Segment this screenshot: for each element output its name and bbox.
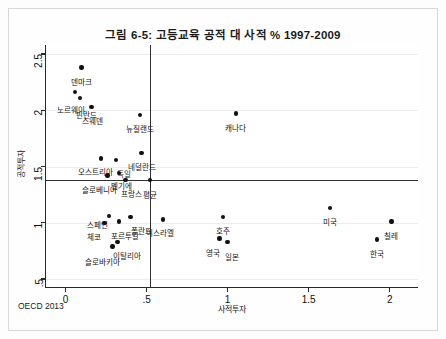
y-tick-label: 1.5 <box>34 167 45 181</box>
data-point <box>117 219 121 223</box>
data-point-label: 스웨덴 <box>82 118 103 126</box>
gridline-y <box>46 110 418 111</box>
data-point-label: 영국 <box>206 250 220 258</box>
data-point-label: 프랑스 <box>121 191 142 199</box>
data-point <box>73 90 77 94</box>
data-point <box>161 217 165 221</box>
data-point-label: 덴마크 <box>71 79 92 87</box>
data-point <box>375 237 379 241</box>
y-tick-label: 2 <box>34 110 45 116</box>
y-tick-label: 1 <box>34 223 45 229</box>
data-point-label: 일본 <box>225 254 239 262</box>
gridline-y <box>46 54 418 55</box>
x-axis-label: 사적투자 <box>45 303 418 314</box>
y-tick-label: 2.5 <box>34 54 45 68</box>
data-point <box>328 206 332 210</box>
gridline-y <box>46 279 418 280</box>
data-point <box>79 65 83 69</box>
figure-container: 그림 6-5: 고등교육 공적 대 사적 % 1997-2009 .511.52… <box>0 0 446 339</box>
data-point <box>217 236 221 240</box>
data-point-label: 체코 <box>87 234 101 242</box>
data-point-label: 칠레 <box>384 233 398 241</box>
y-tick-label: .5 <box>34 279 45 287</box>
data-point <box>102 221 106 225</box>
data-point-label: 네덜란드 <box>128 164 156 172</box>
x-tick-mark <box>65 287 66 292</box>
data-point-label: 슬로베니아 <box>82 187 117 195</box>
data-point <box>128 215 132 219</box>
data-point <box>89 105 93 109</box>
x-tick-mark <box>227 287 228 292</box>
data-point <box>107 214 111 218</box>
data-point-label: 캐나다 <box>225 125 246 133</box>
data-point-label: 이스라엘 <box>146 230 174 238</box>
data-point-label: 뉴질랜드 <box>126 126 154 134</box>
data-point <box>139 151 143 155</box>
data-point <box>123 178 127 182</box>
chart-title: 그림 6-5: 고등교육 공적 대 사적 % 1997-2009 <box>0 26 446 42</box>
data-point <box>99 156 103 160</box>
source-note: OECD 2013 <box>18 301 64 311</box>
data-point <box>114 158 118 162</box>
data-point-label: 한국 <box>370 251 384 259</box>
horizontal-reference-line <box>46 180 418 181</box>
data-point <box>148 178 152 182</box>
x-tick-mark <box>308 287 309 292</box>
data-point <box>105 173 109 177</box>
data-point-label: 슬로바키아 <box>85 259 120 267</box>
x-tick-mark <box>389 287 390 292</box>
data-point <box>225 240 229 244</box>
data-point <box>234 111 238 115</box>
y-axis-label: 공적투자 <box>15 150 26 178</box>
data-point <box>115 240 119 244</box>
data-point <box>389 219 393 223</box>
data-point <box>78 96 82 100</box>
data-point <box>110 244 114 248</box>
data-point <box>138 113 142 117</box>
data-point-label: 평균 <box>143 192 157 200</box>
data-point <box>221 215 225 219</box>
data-point-label: 미국 <box>323 219 337 227</box>
data-point-label: 호주 <box>216 228 230 236</box>
scatter-plot-area: .511.522.5 0.511.52 덴마크노르웨이핀란드스웨덴뉴질랜드캐나다… <box>45 45 418 288</box>
x-tick-mark <box>146 287 147 292</box>
